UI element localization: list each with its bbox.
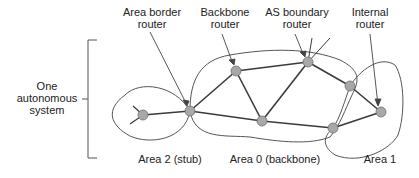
link-center-right_bottom	[262, 121, 333, 128]
label-line: router	[112, 18, 192, 30]
router-node-internal	[376, 107, 386, 117]
label-line: system	[12, 104, 82, 116]
label-area1: Area 1	[355, 153, 405, 165]
label-backbone-router: Backbone router	[195, 6, 255, 30]
label-area0: Area 0 (backbone)	[220, 153, 330, 165]
router-node-right_top	[345, 81, 355, 91]
callout-arrows	[150, 32, 381, 106]
router-node-right_bottom	[328, 123, 338, 133]
label-as-boundary-router: AS boundary router	[262, 6, 332, 30]
label-line: router	[340, 18, 400, 30]
router-node-abr	[185, 106, 195, 116]
router-node-asbr	[303, 57, 313, 67]
link-stub-abr	[143, 111, 190, 115]
link-backbone-center	[236, 71, 262, 121]
router-node-stub	[138, 110, 148, 120]
link-backbone-asbr	[236, 62, 308, 71]
router-node-center	[257, 116, 267, 126]
area1-outline	[325, 62, 403, 158]
link-abr-center	[190, 111, 262, 121]
label-line: router	[195, 18, 255, 30]
area2-outline	[112, 87, 190, 140]
label-line: Area border	[112, 6, 192, 18]
label-line: Internal	[340, 6, 400, 18]
label-line: autonomous	[12, 92, 82, 104]
label-line: router	[262, 18, 332, 30]
label-area-border-router: Area border router	[112, 6, 192, 30]
ospf-areas-diagram: Area border router Backbone router AS bo…	[0, 0, 419, 178]
label-line: One	[12, 80, 82, 92]
label-one-as: One autonomous system	[12, 80, 82, 116]
label-internal-router: Internal router	[340, 6, 400, 30]
link-asbr-right_top	[308, 62, 350, 86]
label-line: Backbone	[195, 6, 255, 18]
label-area2: Area 2 (stub)	[130, 153, 210, 165]
router-node-backbone	[231, 66, 241, 76]
link-asbr-center	[262, 62, 308, 121]
as-bracket	[88, 40, 97, 158]
label-line: AS boundary	[262, 6, 332, 18]
